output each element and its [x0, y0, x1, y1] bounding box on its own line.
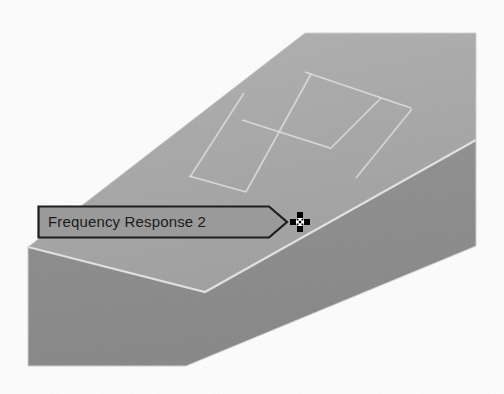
beam-final [0, 0, 504, 394]
screenshot-root: Frequency Response 2 [0, 0, 504, 394]
scan-grain [0, 0, 504, 394]
move-crosshair-cursor [288, 210, 312, 234]
callout-label-text: Frequency Response 2 [48, 205, 206, 239]
3d-model-viewport[interactable] [0, 0, 504, 394]
callout-label[interactable]: Frequency Response 2 [37, 205, 289, 239]
cursor-core [299, 221, 301, 223]
